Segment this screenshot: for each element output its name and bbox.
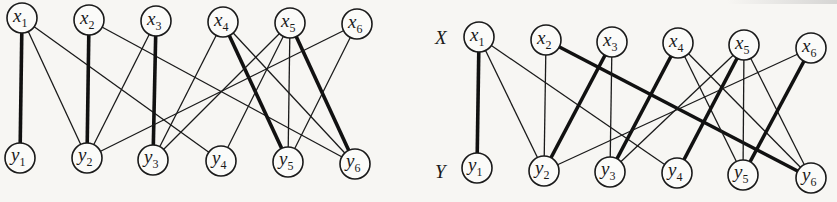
node-x3: x3	[141, 6, 171, 36]
node-x4: x4	[663, 28, 693, 58]
node-y3: y3	[138, 145, 168, 175]
node-x2: x2	[531, 25, 561, 55]
node-x5: x5	[729, 30, 759, 60]
edge-x1-y2	[22, 18, 87, 158]
matched-edge-x5-y4	[677, 45, 744, 173]
partition-label-y: Y	[435, 161, 448, 182]
side-labels: X Y	[434, 27, 448, 182]
edge-x4-y3	[153, 22, 223, 160]
node-x4: x4	[208, 7, 238, 37]
node-x6: x6	[796, 33, 826, 63]
scan-artifact	[727, 0, 837, 4]
matched-edge-x2-y2	[87, 20, 89, 158]
edge-x1-y2	[479, 37, 544, 171]
matched-edge-x3-y3	[153, 21, 156, 160]
matched-edge-x1-y1	[477, 37, 479, 168]
node-y4: y4	[662, 158, 692, 188]
node-y4: y4	[206, 146, 236, 176]
edge-x2-y6	[89, 20, 355, 164]
bipartite-graph-right-edges	[477, 37, 811, 178]
edge-x3-y3	[610, 42, 612, 172]
node-x1: x1	[7, 3, 37, 33]
node-x5: x5	[275, 8, 305, 38]
node-y5: y5	[728, 160, 758, 190]
matched-edge-x1-y1	[20, 18, 22, 158]
node-y3: y3	[595, 157, 625, 187]
node-y1: y1	[462, 153, 492, 183]
edge-x5-y5	[743, 45, 744, 175]
edge-x3-y2	[87, 21, 156, 158]
matched-edge-x4-y3	[610, 43, 678, 172]
node-x3: x3	[597, 27, 627, 57]
node-y6: y6	[796, 163, 826, 193]
node-y1: y1	[5, 143, 35, 173]
bipartite-graph-left-edges	[20, 18, 357, 164]
matched-edge-x3-y2	[544, 42, 612, 171]
node-y2: y2	[529, 156, 559, 186]
node-y5: y5	[273, 147, 303, 177]
matched-edge-x6-y5	[743, 48, 811, 175]
edge-x5-y3	[610, 45, 744, 172]
node-x2: x2	[74, 5, 104, 35]
node-y6: y6	[340, 149, 370, 179]
partition-label-x: X	[434, 27, 448, 48]
edge-x2-y2	[544, 40, 546, 171]
node-y2: y2	[72, 143, 102, 173]
edge-x6-y2	[87, 24, 357, 158]
node-x6: x6	[342, 9, 372, 39]
figure-canvas: x1x2x3x4x5x6y1y2y3y4y5y6x1x2x3x4x5x6y1y2…	[0, 0, 837, 202]
node-x1: x1	[464, 22, 494, 52]
